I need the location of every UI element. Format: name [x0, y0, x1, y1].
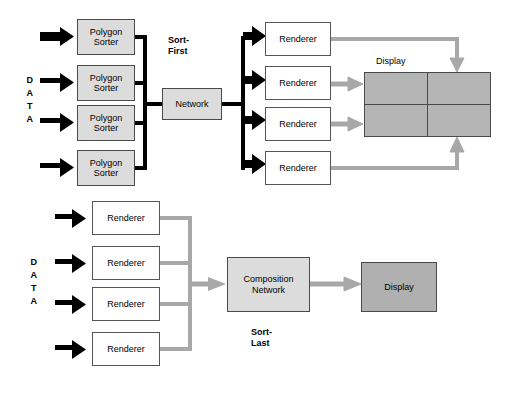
renderer-box-sort-first[interactable]: Renderer	[265, 107, 331, 141]
data-letter: D	[22, 74, 38, 87]
polygon-sorter-box[interactable]: Polygon Sorter	[77, 105, 135, 141]
data-letter: A	[22, 87, 38, 100]
display-tile[interactable]	[365, 105, 428, 137]
polygon-sorter-label-line1: Polygon	[90, 73, 123, 83]
renderer-label: Renderer	[107, 344, 145, 354]
sorter-to-network-bus	[135, 35, 163, 170]
renderer-box-sort-last[interactable]: Renderer	[92, 287, 160, 321]
renderer-label: Renderer	[279, 163, 317, 173]
renderer-box-sort-first[interactable]: Renderer	[265, 151, 331, 185]
polygon-sorter-label-line2: Sorter	[90, 123, 123, 133]
display-tile[interactable]	[365, 73, 428, 105]
display-label-sort-first: Display	[376, 56, 406, 66]
display-tile[interactable]	[428, 105, 491, 137]
data-label-sort-last: D A T A	[26, 256, 42, 308]
polygon-sorter-label-line2: Sorter	[90, 37, 123, 47]
composition-network-box[interactable]: Composition Network	[227, 257, 310, 312]
sort-last-label: Sort- Last	[251, 327, 272, 350]
renderer-box-sort-first[interactable]: Renderer	[265, 66, 331, 100]
data-input-arrows-bottom	[55, 209, 86, 359]
polygon-sorter-box[interactable]: Polygon Sorter	[77, 65, 135, 101]
renderer-label: Renderer	[107, 258, 145, 268]
renderer-box-sort-first[interactable]: Renderer	[265, 22, 331, 56]
polygon-sorter-label-line1: Polygon	[90, 27, 123, 37]
network-label: Network	[175, 99, 208, 109]
renderer-box-sort-last[interactable]: Renderer	[92, 332, 160, 366]
data-letter: T	[26, 282, 42, 295]
network-to-renderer-bus	[221, 36, 244, 170]
sort-first-label: Sort- First	[168, 35, 189, 58]
data-letter: A	[26, 295, 42, 308]
sort-first-label-line2: First	[168, 46, 189, 57]
renderer-box-sort-last[interactable]: Renderer	[92, 201, 160, 235]
polygon-sorter-box[interactable]: Polygon Sorter	[77, 19, 135, 55]
bus-to-renderer-arrows	[243, 26, 266, 174]
renderer-label: Renderer	[107, 213, 145, 223]
renderer-to-composition-bus	[160, 216, 208, 351]
polygon-sorter-label-line2: Sorter	[90, 83, 123, 93]
display-box-sort-last[interactable]: Display	[361, 262, 437, 312]
data-letter: A	[26, 269, 42, 282]
composition-to-display-link	[310, 277, 361, 291]
sort-first-label-line1: Sort-	[168, 35, 189, 46]
sort-last-label-line2: Last	[251, 338, 272, 349]
data-letter: D	[26, 256, 42, 269]
renderer-label: Renderer	[279, 119, 317, 129]
composition-input-arrowhead	[208, 277, 226, 291]
polygon-sorter-label-line1: Polygon	[90, 158, 123, 168]
renderer-label: Renderer	[279, 34, 317, 44]
display-tiled[interactable]	[364, 72, 491, 137]
sort-last-label-line1: Sort-	[251, 327, 272, 338]
renderer-label: Renderer	[107, 299, 145, 309]
composition-network-label-line1: Composition	[243, 274, 293, 284]
polygon-sorter-box[interactable]: Polygon Sorter	[77, 150, 135, 186]
data-letter: A	[22, 113, 38, 126]
renderer-label: Renderer	[279, 78, 317, 88]
display-label: Display	[384, 282, 414, 292]
polygon-sorter-label-line2: Sorter	[90, 168, 123, 178]
polygon-sorter-label-line1: Polygon	[90, 113, 123, 123]
composition-network-label-line2: Network	[243, 285, 293, 295]
renderer-box-sort-last[interactable]: Renderer	[92, 246, 160, 280]
data-label-sort-first: D A T A	[22, 74, 38, 126]
display-tile[interactable]	[428, 73, 491, 105]
network-box[interactable]: Network	[162, 88, 222, 120]
data-input-arrows-top	[40, 27, 74, 177]
diagram-canvas: D A T A Polygon Sorter Polygon Sorter Po…	[0, 0, 509, 393]
data-letter: T	[22, 100, 38, 113]
